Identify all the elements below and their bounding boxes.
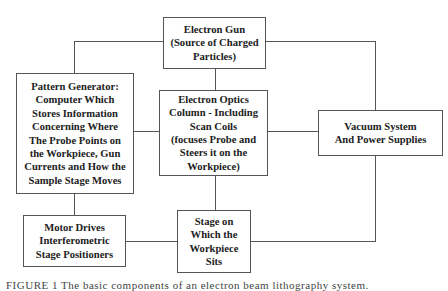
node-motor-drives-label: Motor Drives Interferometric Stage Posit… bbox=[36, 221, 113, 261]
node-stage: Stage on Which the Workpiece Sits bbox=[177, 210, 251, 273]
edge-gun-to-pattern-h bbox=[74, 41, 163, 42]
node-pattern-generator: Pattern Generator: Computer Which Stores… bbox=[16, 73, 134, 194]
edge-optics-to-vacuum bbox=[267, 131, 318, 132]
node-pattern-generator-label: Pattern Generator: Computer Which Stores… bbox=[24, 80, 125, 187]
node-motor-drives: Motor Drives Interferometric Stage Posit… bbox=[23, 215, 126, 267]
node-vacuum-system-label: Vacuum System And Power Supplies bbox=[335, 120, 427, 147]
edge-gun-to-vacuum-h bbox=[265, 41, 376, 42]
edge-optics-to-stage bbox=[215, 175, 216, 210]
node-electron-gun-label: Electron Gun (Source of Charged Particle… bbox=[170, 23, 258, 63]
edge-vacuum-to-stage-v bbox=[375, 155, 376, 242]
edge-pattern-to-optics bbox=[133, 131, 159, 132]
node-stage-label: Stage on Which the Workpiece Sits bbox=[190, 215, 239, 269]
edge-gun-to-vacuum-v bbox=[375, 41, 376, 110]
node-electron-gun: Electron Gun (Source of Charged Particle… bbox=[163, 17, 266, 69]
node-electron-optics: Electron Optics Column - Including Scan … bbox=[159, 90, 268, 176]
figure-caption: FIGURE 1 The basic components of an elec… bbox=[6, 279, 369, 291]
edge-pattern-to-motor bbox=[74, 193, 75, 215]
node-electron-optics-label: Electron Optics Column - Including Scan … bbox=[169, 93, 258, 173]
node-vacuum-system: Vacuum System And Power Supplies bbox=[318, 110, 443, 156]
edge-vacuum-to-stage-h bbox=[250, 241, 376, 242]
edge-motor-to-stage bbox=[125, 241, 177, 242]
edge-gun-to-pattern-v bbox=[74, 41, 75, 73]
edge-gun-to-optics bbox=[215, 68, 216, 90]
